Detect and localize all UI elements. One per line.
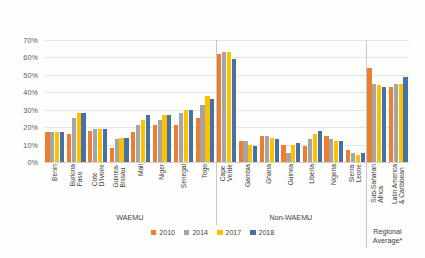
- bar-2014: [72, 118, 76, 162]
- y-axis-tick-label: 10%: [23, 140, 38, 149]
- category-label-text: Gambia: [244, 164, 251, 187]
- category-label-text: Guinea: [287, 164, 294, 185]
- bar-group: [366, 40, 387, 162]
- bar-group: [388, 40, 409, 162]
- bar-group: [237, 40, 258, 162]
- bar-2017: [184, 110, 188, 162]
- group-separator: [216, 40, 217, 225]
- legend-item-2018[interactable]: 2018: [250, 229, 274, 236]
- bar-2018: [189, 110, 193, 162]
- bar-2018: [382, 87, 386, 162]
- legend-label: 2018: [259, 229, 275, 236]
- bar-group: [65, 40, 86, 162]
- category-label-text: Nigeria: [330, 164, 337, 185]
- bar-2018: [167, 115, 171, 162]
- bars-layer: [44, 40, 409, 162]
- category-label-text: Sub-Saharan Africa: [370, 164, 384, 203]
- category-label: Ghana: [259, 164, 280, 212]
- category-label: Mali: [130, 164, 151, 212]
- bar-chart-financial-inclusion: 0%10%20%30%40%50%60%70% BeninBurkina Fas…: [0, 0, 425, 258]
- bar-2018: [275, 139, 279, 162]
- bar-group: [302, 40, 323, 162]
- bar-2017: [248, 145, 252, 162]
- category-label: Liberia: [302, 164, 323, 212]
- bar-2014: [115, 139, 119, 162]
- y-axis-tick-label: 40%: [23, 88, 38, 97]
- bar-2017: [55, 132, 59, 162]
- bar-2017: [162, 115, 166, 162]
- bar-2010: [174, 125, 178, 162]
- category-label-text: Ghana: [266, 164, 273, 184]
- bar-2010: [346, 150, 350, 162]
- category-label-text: Latin America & Caribbean: [391, 164, 405, 204]
- bar-2017: [334, 141, 338, 162]
- bar-2018: [103, 129, 107, 162]
- bar-2018: [339, 141, 343, 162]
- legend-swatch-icon: [250, 230, 256, 236]
- legend-swatch-icon: [151, 230, 157, 236]
- category-label: Togo: [194, 164, 215, 212]
- bar-2014: [50, 132, 54, 162]
- bar-2014: [308, 139, 312, 162]
- y-axis-tick-label: 70%: [23, 36, 38, 45]
- bar-2010: [153, 125, 157, 162]
- category-label-text: Cape Verde: [219, 164, 233, 181]
- bar-2010: [367, 68, 371, 162]
- bar-2010: [217, 54, 221, 162]
- bar-2014: [200, 105, 204, 163]
- bar-group: [130, 40, 151, 162]
- bar-2018: [253, 146, 257, 162]
- bar-2014: [179, 113, 183, 162]
- category-label-text: Liberia: [309, 164, 316, 184]
- legend-item-2010[interactable]: 2010: [151, 229, 175, 236]
- bar-2014: [351, 153, 355, 162]
- bar-group: [151, 40, 172, 162]
- bar-2017: [291, 145, 295, 162]
- category-axis-labels: BeninBurkina FasoCote D'IvoireGuinea- Bi…: [44, 164, 409, 212]
- bar-2017: [77, 113, 81, 162]
- legend: 2010201420172018: [0, 229, 425, 236]
- bar-2018: [60, 132, 64, 162]
- bar-2018: [403, 77, 407, 162]
- bar-2018: [232, 59, 236, 162]
- bar-2017: [270, 138, 274, 162]
- y-axis-tick-label: 0%: [27, 158, 38, 167]
- group-separator: [366, 40, 367, 248]
- bar-2017: [119, 138, 123, 162]
- bar-2014: [243, 141, 247, 162]
- bar-2018: [318, 131, 322, 162]
- bar-2017: [356, 155, 360, 162]
- bar-2018: [124, 138, 128, 162]
- group-label: WAEMU: [44, 214, 216, 223]
- category-label-text: Sierra Leone: [348, 164, 362, 182]
- category-label: Guinea- Bissau: [108, 164, 129, 212]
- legend-item-2014[interactable]: 2014: [184, 229, 208, 236]
- bar-2010: [196, 118, 200, 162]
- category-label: Sub-Saharan Africa: [366, 164, 387, 212]
- category-label-text: Niger: [158, 164, 165, 180]
- bar-2010: [110, 148, 114, 162]
- bar-2017: [141, 120, 145, 162]
- category-label-text: Benin: [51, 164, 58, 181]
- bar-2017: [227, 52, 231, 162]
- bar-2010: [389, 87, 393, 162]
- bar-2014: [93, 129, 97, 162]
- bar-2017: [205, 96, 209, 162]
- gridline-0: [44, 162, 409, 163]
- bar-2014: [136, 125, 140, 162]
- bar-2014: [158, 120, 162, 162]
- bar-2018: [81, 113, 85, 162]
- category-label: Cote D'Ivoire: [87, 164, 108, 212]
- category-label: Nigeria: [323, 164, 344, 212]
- legend-item-2017[interactable]: 2017: [217, 229, 241, 236]
- category-label-text: Cote D'Ivoire: [90, 164, 104, 186]
- y-axis-tick-label: 20%: [23, 123, 38, 132]
- category-label: Gambia: [237, 164, 258, 212]
- bar-group: [216, 40, 237, 162]
- bar-2018: [146, 115, 150, 162]
- bar-2014: [286, 153, 290, 162]
- bar-2017: [399, 84, 403, 162]
- legend-label: 2014: [192, 229, 208, 236]
- y-axis: 0%10%20%30%40%50%60%70%: [0, 40, 42, 162]
- bar-2018: [210, 99, 214, 162]
